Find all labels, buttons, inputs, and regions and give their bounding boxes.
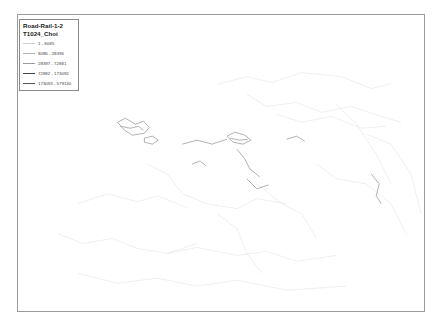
dense-network [118, 118, 382, 203]
sparse-network [58, 73, 421, 291]
legend-label: 28397 - 72881 [38, 61, 66, 66]
legend-item: 28397 - 72881 [23, 58, 75, 68]
legend-item: 72882 - 173092 [23, 68, 75, 78]
map-frame: Road-Rail-1-2 T1024_Choi 1 - 8085 8086 -… [17, 14, 425, 312]
line-swatch [23, 43, 35, 44]
legend-item: 173093 - 579130 [23, 78, 75, 88]
line-swatch [23, 73, 35, 74]
legend-label: 72882 - 173092 [38, 71, 69, 76]
line-swatch [23, 53, 35, 54]
legend-label: 8086 - 28396 [38, 51, 64, 56]
legend-label: 173093 - 579130 [38, 81, 71, 86]
line-swatch [23, 63, 35, 64]
map-legend: Road-Rail-1-2 T1024_Choi 1 - 8085 8086 -… [19, 19, 79, 91]
line-swatch [23, 83, 35, 84]
legend-title: Road-Rail-1-2 [23, 22, 75, 30]
legend-label: 1 - 8085 [38, 41, 54, 46]
legend-item: 8086 - 28396 [23, 48, 75, 58]
legend-subtitle: T1024_Choi [23, 30, 75, 38]
legend-item: 1 - 8085 [23, 38, 75, 48]
